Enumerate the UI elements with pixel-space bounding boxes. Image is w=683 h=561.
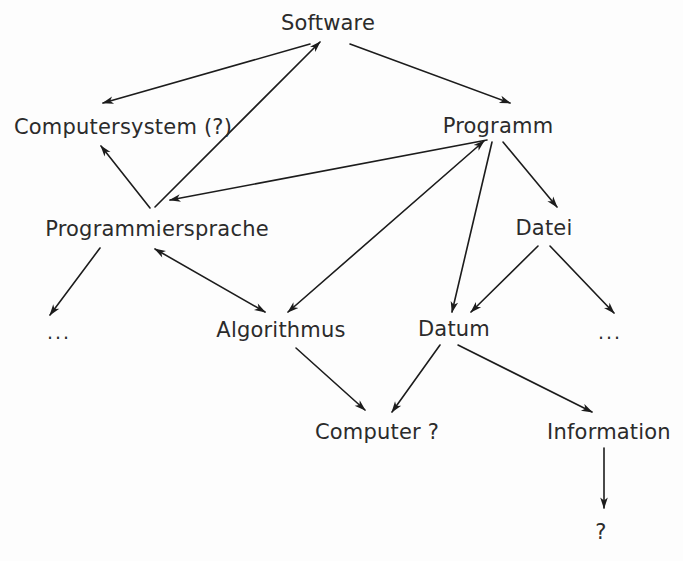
edge-datei-datum xyxy=(471,246,538,312)
node-question: ? xyxy=(595,520,606,544)
node-datei: Datei xyxy=(515,216,572,240)
edge-programm-algorithmus xyxy=(288,141,484,312)
diagram-edges-layer xyxy=(0,0,683,561)
edge-datum-computer xyxy=(392,345,440,412)
node-programm: Programm xyxy=(443,114,554,138)
node-software: Software xyxy=(281,11,375,35)
node-ellipsis-right: ... xyxy=(598,320,622,344)
node-datum: Datum xyxy=(418,317,490,341)
edge-programmiersprache-computersystem xyxy=(101,146,150,208)
node-programmiersprache: Programmiersprache xyxy=(45,217,269,241)
node-computer: Computer ? xyxy=(315,420,439,444)
edge-datei-ellipsis xyxy=(550,246,614,313)
node-computersystem: Computersystem (?) xyxy=(14,115,232,139)
edge-programm-datei xyxy=(503,142,557,207)
concept-diagram: SoftwareComputersystem (?)ProgrammProgra… xyxy=(0,0,683,561)
edge-programmiersprache-ellipsis xyxy=(50,248,100,315)
edge-algorithmus-computer xyxy=(296,348,365,410)
node-algorithmus: Algorithmus xyxy=(216,318,345,342)
edge-programm-datum xyxy=(452,142,492,312)
edge-programmiersprache-algorithmus xyxy=(155,249,265,312)
edge-programm-programmiersprache xyxy=(170,140,487,200)
node-ellipsis-left: ... xyxy=(47,320,71,344)
edge-software-computersystem xyxy=(103,44,310,103)
node-information: Information xyxy=(547,420,671,444)
edge-datum-information xyxy=(458,345,592,412)
edge-software-programm xyxy=(350,44,510,103)
